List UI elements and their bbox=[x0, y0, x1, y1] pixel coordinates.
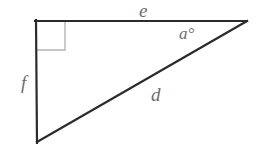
triangle-side-hypotenuse bbox=[37, 21, 247, 142]
side-label-f: f bbox=[21, 73, 26, 92]
side-label-e: e bbox=[139, 1, 147, 20]
right-triangle-figure: e f d a° bbox=[0, 0, 259, 158]
triangle-graphic bbox=[0, 0, 259, 158]
right-angle-marker-icon bbox=[36, 21, 65, 50]
triangle-side-left bbox=[36, 20, 37, 143]
angle-label-a: a° bbox=[179, 25, 194, 42]
side-label-d: d bbox=[151, 85, 161, 104]
